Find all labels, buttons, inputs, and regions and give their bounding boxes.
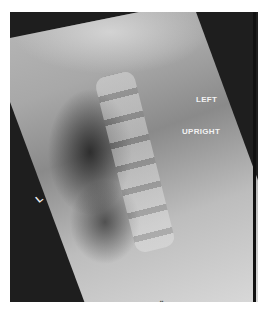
position-label: UPRIGHT xyxy=(182,127,220,136)
xray-film xyxy=(10,12,258,302)
film-edge xyxy=(253,12,256,302)
cervical-spine xyxy=(94,70,176,254)
bottom-annotation: ▪▪ xyxy=(160,298,164,302)
lead-marker: L xyxy=(33,192,45,204)
xray-frame: LEFT UPRIGHT L ▪▪ xyxy=(10,12,258,302)
side-label: LEFT xyxy=(196,95,217,104)
